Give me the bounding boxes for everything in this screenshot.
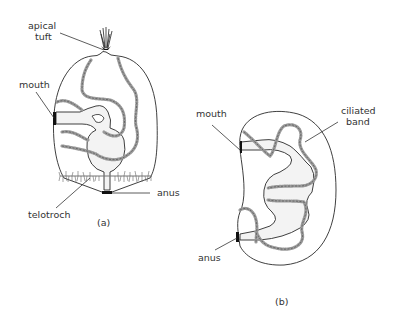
- mouth-b: [240, 141, 242, 153]
- mouth-a: [53, 112, 56, 125]
- caption-b: (b): [275, 296, 288, 307]
- anus-b: [236, 232, 239, 242]
- leader-anus-b: [215, 238, 237, 250]
- label-anus-a: anus: [157, 187, 180, 198]
- label-apical-tuft-line1: apical: [28, 20, 56, 31]
- leader-mouth-b: [212, 125, 240, 150]
- panel-b-larva: [236, 111, 336, 265]
- caption-a: (a): [97, 217, 110, 228]
- label-apical-tuft-line2: tuft: [35, 31, 52, 42]
- leader-apical-tuft: [60, 33, 104, 50]
- anus-a: [102, 191, 112, 194]
- label-telotroch: telotroch: [28, 209, 71, 220]
- label-anus-b: anus: [198, 252, 221, 263]
- leader-mouth-a: [36, 92, 54, 118]
- label-ciliated-band-line1: ciliated: [341, 105, 376, 116]
- label-ciliated-band-line2: band: [346, 116, 370, 127]
- leader-ciliated-band: [305, 122, 338, 142]
- apical-tuft: [100, 27, 112, 50]
- larva-diagram: apical tuft mouth anus telotroch (a) mou…: [0, 0, 396, 319]
- leader-telotroch: [56, 178, 90, 208]
- label-mouth-b: mouth: [196, 108, 227, 119]
- panel-a-larva: [53, 27, 157, 194]
- label-mouth-a: mouth: [19, 79, 50, 90]
